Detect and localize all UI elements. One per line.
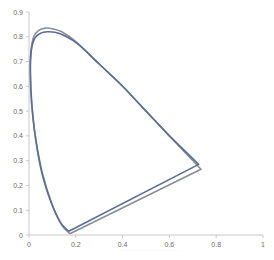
y-tick-label: 0.8 bbox=[13, 33, 23, 40]
chart-caption: · · · · · · · · · · · · · · · · bbox=[122, 247, 179, 253]
x-tick-label: 0.2 bbox=[71, 241, 81, 248]
y-tick-label: 0.1 bbox=[13, 207, 23, 214]
x-tick-label: 0 bbox=[27, 241, 31, 248]
x-tick-label: 1 bbox=[261, 241, 265, 248]
series-lines bbox=[30, 28, 201, 234]
y-tick-label: 0.5 bbox=[13, 108, 23, 115]
y-tick-label: 0.9 bbox=[13, 9, 23, 16]
y-tick-label: 0.6 bbox=[13, 83, 23, 90]
y-tick-label: 0.3 bbox=[13, 157, 23, 164]
y-tick-label: 0.7 bbox=[13, 58, 23, 65]
y-tick-label: 0.2 bbox=[13, 182, 23, 189]
series-line-gamut-outer bbox=[30, 28, 201, 234]
y-tick-label: 0 bbox=[19, 232, 23, 239]
y-tick-label: 0.4 bbox=[13, 132, 23, 139]
x-tick-label: 0.8 bbox=[211, 241, 221, 248]
chromaticity-chart: 00.10.20.30.40.50.60.70.80.9 00.20.40.60… bbox=[0, 0, 274, 260]
series-line-gamut-inner bbox=[30, 32, 198, 232]
y-tick-labels: 00.10.20.30.40.50.60.70.80.9 bbox=[13, 9, 29, 239]
axes bbox=[29, 12, 263, 235]
